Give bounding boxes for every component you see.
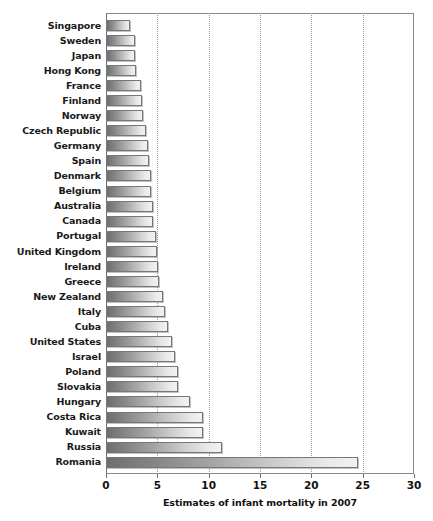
x-tick-5 [157,474,158,478]
bar-belgium [106,186,151,197]
bar-row [106,364,414,379]
x-tick-30 [414,474,415,478]
bar-row [106,33,414,48]
bar-spain [106,155,149,166]
x-tick-label-15: 15 [253,479,268,491]
x-tick-20 [311,474,312,478]
bar-row [106,349,414,364]
bar-greece [106,276,159,287]
bar-hong-kong [106,65,136,76]
y-label-united-kingdom: United Kingdom [0,246,101,257]
bar-row [106,334,414,349]
bar-row [106,108,414,123]
bar-italy [106,306,165,317]
bar-australia [106,201,153,212]
bar-finland [106,95,142,106]
y-label-russia: Russia [0,441,101,452]
y-label-australia: Australia [0,200,101,211]
x-tick-15 [260,474,261,478]
bar-slovakia [106,381,178,392]
bar-row [106,138,414,153]
bar-row [106,183,414,198]
infant-mortality-bar-chart: SingaporeSwedenJapanHong KongFranceFinla… [0,0,433,521]
bar-portugal [106,231,156,242]
x-tick-10 [209,474,210,478]
bar-norway [106,110,143,121]
x-tick-label-20: 20 [304,479,319,491]
bar-row [106,63,414,78]
y-label-slovakia: Slovakia [0,381,101,392]
bar-poland [106,366,178,377]
x-tick-25 [363,474,364,478]
bar-row [106,289,414,304]
y-label-france: France [0,80,101,91]
bar-row [106,424,414,439]
bar-row [106,304,414,319]
bar-united-kingdom [106,246,157,257]
bar-row [106,93,414,108]
y-label-canada: Canada [0,215,101,226]
bar-row [106,213,414,228]
bar-singapore [106,20,130,31]
y-label-japan: Japan [0,50,101,61]
y-label-portugal: Portugal [0,230,101,241]
y-label-denmark: Denmark [0,170,101,181]
bar-cuba [106,321,168,332]
y-label-hungary: Hungary [0,396,101,407]
y-label-kuwait: Kuwait [0,426,101,437]
bar-row [106,198,414,213]
y-label-belgium: Belgium [0,185,101,196]
y-label-united-states: United States [0,336,101,347]
bar-kuwait [106,427,203,438]
bar-row [106,48,414,63]
bar-row [106,153,414,168]
y-label-romania: Romania [0,456,101,467]
y-label-singapore: Singapore [0,20,101,31]
bar-row [106,454,414,469]
bar-row [106,78,414,93]
bar-germany [106,140,148,151]
y-label-italy: Italy [0,306,101,317]
bar-row [106,228,414,243]
x-axis-title: Estimates of infant mortality in 2007 [106,497,414,508]
y-label-finland: Finland [0,95,101,106]
x-tick-label-30: 30 [407,479,422,491]
bar-new-zealand [106,291,163,302]
y-label-ireland: Ireland [0,261,101,272]
y-label-poland: Poland [0,366,101,377]
bar-france [106,80,141,91]
y-label-sweden: Sweden [0,35,101,46]
bar-israel [106,351,175,362]
bar-row [106,168,414,183]
bar-united-states [106,336,172,347]
bar-row [106,259,414,274]
y-label-czech-republic: Czech Republic [0,125,101,136]
x-tick-label-0: 0 [102,479,109,491]
bar-row [106,319,414,334]
bar-row [106,18,414,33]
x-tick-label-5: 5 [154,479,161,491]
bar-czech-republic [106,125,146,136]
bar-row [106,394,414,409]
bar-denmark [106,170,151,181]
y-label-spain: Spain [0,155,101,166]
y-label-costa-rica: Costa Rica [0,411,101,422]
bar-row [106,274,414,289]
bar-russia [106,442,222,453]
bar-japan [106,50,135,61]
bar-row [106,409,414,424]
bar-hungary [106,396,190,407]
bars-group [106,13,414,474]
y-axis-category-labels: SingaporeSwedenJapanHong KongFranceFinla… [0,13,101,474]
bar-row [106,439,414,454]
bar-ireland [106,261,158,272]
y-label-cuba: Cuba [0,321,101,332]
x-tick-label-10: 10 [201,479,216,491]
x-tick-0 [106,474,107,478]
bar-row [106,379,414,394]
x-tick-label-25: 25 [355,479,370,491]
bar-row [106,244,414,259]
bar-costa-rica [106,412,203,423]
y-label-israel: Israel [0,351,101,362]
bar-canada [106,216,153,227]
